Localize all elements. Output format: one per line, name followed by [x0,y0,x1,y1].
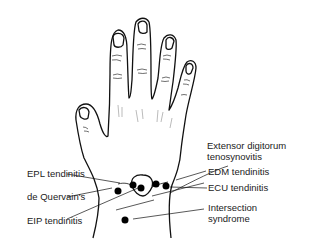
label-eip: EIP tendinitis [27,215,82,226]
label-extensor-digitorum: Extensor digitorum tenosynovitis [207,140,286,162]
hand-illustration [0,0,313,246]
label-edm: EDM tendinitis [208,166,269,177]
label-dequervain: de Quervain's [27,191,85,202]
label-intersection: Intersection syndrome [208,202,257,224]
label-ecu: ECU tendinitis [208,182,268,193]
wrist-diagram: Extensor digitorum tenosynovitis EPL ten… [0,0,313,246]
label-epl: EPL tendinitis [27,168,85,179]
